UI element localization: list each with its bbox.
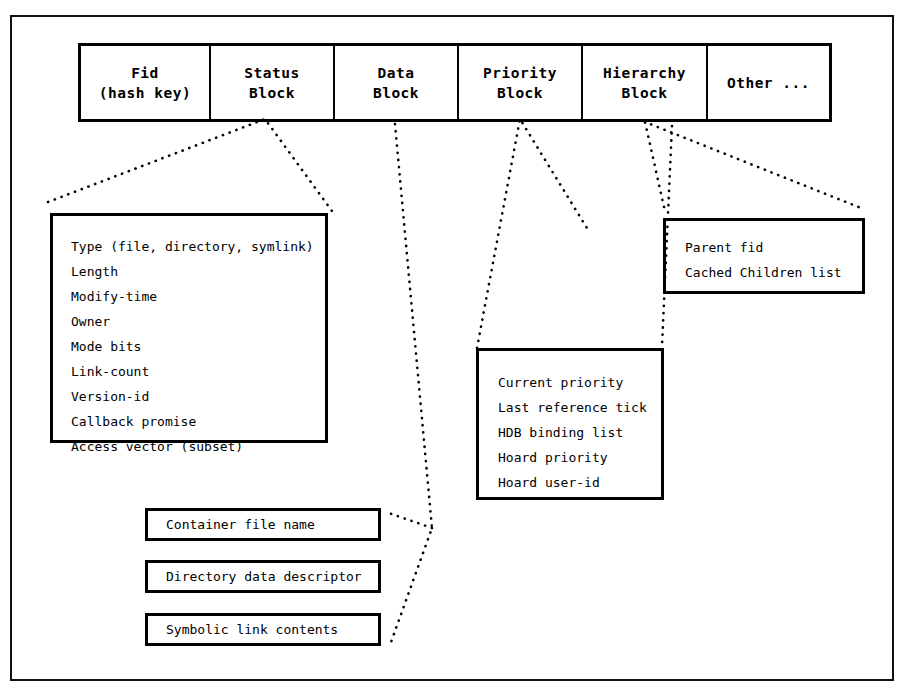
record-cell-fid-line1: Fid — [131, 63, 159, 83]
status-field: Modify-time — [71, 284, 325, 309]
record-cell-priority-line2: Block — [497, 83, 543, 103]
record-cell-hierarchy-line1: Hierarchy — [603, 63, 686, 83]
hierarchy-field: Parent fid — [685, 235, 862, 260]
status-field: Version-id — [71, 384, 325, 409]
hierarchy-block-detail-box: Parent fid Cached Children list — [663, 218, 865, 294]
record-cell-other[interactable]: Other ... — [708, 46, 829, 119]
data-block-symbolic-link-box: Symbolic link contents — [145, 613, 381, 646]
record-table: Fid (hash key) Status Block Data Block P… — [78, 43, 832, 122]
priority-field: Current priority — [498, 370, 661, 395]
status-field: Type (file, directory, symlink) — [71, 234, 325, 259]
record-cell-data-line1: Data — [378, 63, 415, 83]
status-field: Owner — [71, 309, 325, 334]
data-block-label: Symbolic link contents — [166, 622, 338, 637]
priority-block-detail-box: Current priority Last reference tick HDB… — [476, 348, 664, 500]
record-cell-hierarchy[interactable]: Hierarchy Block — [583, 46, 708, 119]
priority-field: Hoard user-id — [498, 470, 661, 495]
priority-field: Hoard priority — [498, 445, 661, 470]
record-cell-data[interactable]: Data Block — [335, 46, 459, 119]
status-field: Callback promise — [71, 409, 325, 434]
priority-field: HDB binding list — [498, 420, 661, 445]
record-cell-priority[interactable]: Priority Block — [459, 46, 583, 119]
record-cell-status[interactable]: Status Block — [211, 46, 335, 119]
cache-record-diagram: Fid (hash key) Status Block Data Block P… — [0, 0, 906, 699]
record-cell-hierarchy-line2: Block — [621, 83, 667, 103]
hierarchy-field: Cached Children list — [685, 260, 862, 285]
record-cell-status-line1: Status — [244, 63, 299, 83]
record-cell-fid[interactable]: Fid (hash key) — [81, 46, 211, 119]
status-field: Link-count — [71, 359, 325, 384]
status-field: Mode bits — [71, 334, 325, 359]
data-block-label: Directory data descriptor — [166, 569, 362, 584]
priority-block-field-list: Current priority Last reference tick HDB… — [498, 370, 661, 495]
priority-field: Last reference tick — [498, 395, 661, 420]
hierarchy-block-field-list: Parent fid Cached Children list — [685, 235, 862, 285]
record-cell-status-line2: Block — [249, 83, 295, 103]
record-cell-priority-line1: Priority — [483, 63, 557, 83]
status-block-field-list: Type (file, directory, symlink) Length M… — [71, 234, 325, 459]
status-block-detail-box: Type (file, directory, symlink) Length M… — [50, 213, 328, 443]
record-cell-data-line2: Block — [373, 83, 419, 103]
record-cell-fid-line2: (hash key) — [99, 83, 191, 103]
data-block-label: Container file name — [166, 517, 315, 532]
status-field: Length — [71, 259, 325, 284]
status-field: Access vector (subset) — [71, 434, 325, 459]
data-block-container-file-name-box: Container file name — [145, 508, 381, 541]
record-cell-other-line1: Other ... — [727, 73, 810, 93]
data-block-directory-descriptor-box: Directory data descriptor — [145, 560, 381, 593]
